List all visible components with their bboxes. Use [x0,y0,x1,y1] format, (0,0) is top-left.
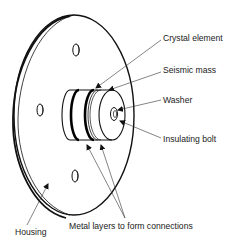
hole-left [37,104,43,116]
leader-insulating-bolt [120,121,161,138]
label-crystal-element: Crystal element [163,33,223,43]
hole-bottom [72,170,78,182]
leader-metal-layer-2 [101,145,125,218]
leader-crystal-element [96,40,161,88]
leader-seismic-mass [109,72,161,90]
label-metal-layers: Metal layers to form connections [69,221,193,231]
crystal-stack [62,90,125,140]
accelerometer-diagram: Crystal element Seismic mass Washer Insu… [0,0,241,251]
label-washer: Washer [163,95,192,105]
label-housing: Housing [15,227,47,237]
label-insulating-bolt: Insulating bolt [163,134,217,144]
label-seismic-mass: Seismic mass [163,65,216,75]
hole-top [73,44,79,56]
